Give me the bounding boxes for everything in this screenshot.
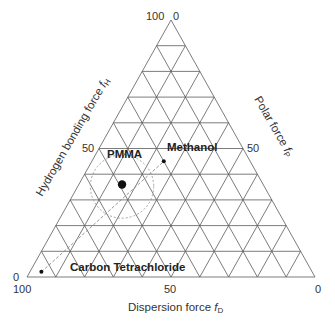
- grid-line: [41, 251, 55, 277]
- left-axis-label: Hydrogen bonding force fH: [33, 75, 113, 199]
- dashed-tie-line: [41, 161, 163, 272]
- carbon-tetrachloride-point: [39, 270, 43, 274]
- grid-line: [157, 46, 287, 277]
- apex-tick-hydrogen-100: 100: [146, 10, 164, 22]
- methanol-label: Methanol: [167, 141, 217, 153]
- grid-line: [229, 200, 272, 277]
- carbon-tetrachloride-label: Carbon Tetrachloride: [70, 261, 185, 273]
- grid-line: [128, 97, 229, 277]
- ternary-diagram: PMMA Methanol Carbon Tetrachloride 100 0…: [0, 0, 335, 321]
- pmma-point: [118, 180, 126, 188]
- bottom-tick-50: 50: [164, 283, 176, 295]
- x-axis-label: Dispersion force fD: [128, 301, 224, 315]
- pmma-label: PMMA: [107, 148, 142, 160]
- bottom-tick-0: 0: [315, 283, 321, 295]
- left-tick-50: 50: [82, 142, 94, 154]
- apex-tick-polar-0: 0: [173, 10, 179, 22]
- grid-line: [99, 149, 171, 278]
- grid-line: [56, 46, 186, 277]
- methanol-point: [162, 159, 166, 163]
- left-tick-0: 0: [13, 271, 19, 283]
- bottom-tick-100: 100: [13, 283, 31, 295]
- grid-line: [171, 149, 243, 278]
- grid-line: [113, 97, 214, 277]
- grid-line: [286, 251, 300, 277]
- right-tick-50: 50: [247, 142, 259, 154]
